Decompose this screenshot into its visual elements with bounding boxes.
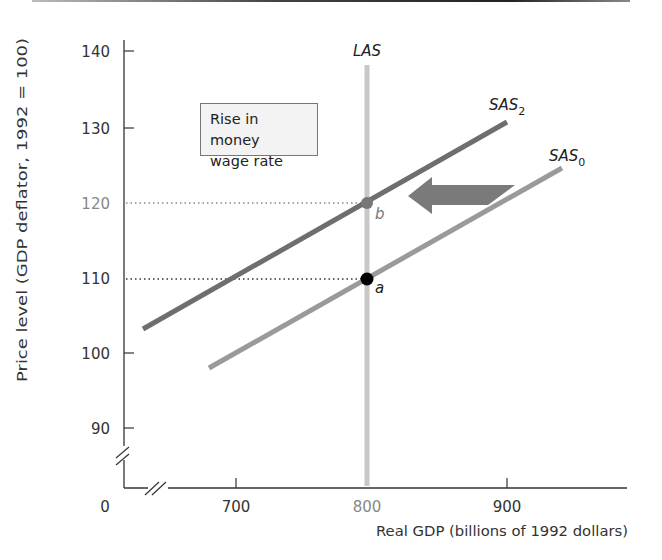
axes	[114, 40, 627, 495]
y-tick-140: 140	[81, 43, 110, 61]
origin-label: 0	[100, 498, 110, 516]
annotation-box: Rise in money wage rate	[200, 103, 318, 156]
y-tick-110: 110	[81, 270, 110, 288]
point-a	[361, 273, 374, 286]
y-tick-100: 100	[81, 345, 110, 363]
sas0-label: SAS0	[549, 147, 585, 169]
y-axis-title: Price level (GDP deflator, 1992 = 100)	[14, 38, 30, 382]
y-tick-120: 120	[81, 195, 110, 213]
x-tick-900: 900	[493, 498, 522, 516]
y-tick-90: 90	[91, 420, 110, 438]
x-tick-700: 700	[222, 498, 251, 516]
sas2-label: SAS2	[489, 96, 525, 118]
x-axis-break-icon	[145, 482, 168, 495]
x-tick-labels: 700 800 900	[222, 498, 522, 516]
point-b	[361, 197, 373, 209]
leftward-shift-arrow-icon	[408, 177, 515, 214]
point-a-label: a	[375, 279, 384, 297]
sas2-curve	[143, 122, 507, 329]
las-label: LAS	[353, 42, 382, 60]
sas0-curve	[209, 168, 562, 368]
ad-as-chart: 140 130 120 110 100 90 0 700 800 900 Rea…	[0, 0, 662, 560]
y-tick-130: 130	[81, 120, 110, 138]
y-tick-labels: 140 130 120 110 100 90 0	[81, 43, 110, 516]
annotation-line-2: wage rate	[210, 151, 308, 172]
x-axis-title: Real GDP (billions of 1992 dollars)	[376, 523, 628, 539]
annotation-line-1: Rise in money	[210, 109, 308, 151]
point-b-label: b	[375, 205, 385, 223]
x-tick-800: 800	[353, 498, 382, 516]
